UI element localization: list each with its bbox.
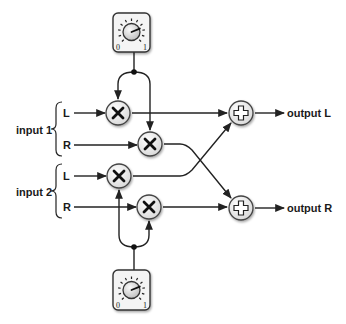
input-2-r-label: R bbox=[63, 201, 71, 213]
input-2-brace bbox=[51, 164, 62, 218]
output-r-label: output R bbox=[287, 202, 332, 214]
multiplier-node-2 bbox=[138, 132, 162, 156]
wire-top-knob-to-mul2 bbox=[134, 72, 150, 130]
knob-tick bbox=[142, 35, 144, 36]
input-2-group: input 2 L R bbox=[16, 164, 71, 218]
wire-top-knob-to-mul1 bbox=[118, 72, 134, 99]
wire-bottom-knob-to-mul3 bbox=[119, 190, 134, 247]
knob-tick bbox=[142, 293, 144, 294]
input-1-brace bbox=[51, 102, 62, 156]
knob-max-label: 1 bbox=[143, 43, 147, 52]
knob-tick bbox=[119, 293, 121, 294]
wire-mul2-to-add-r bbox=[164, 144, 231, 198]
input-1-label: input 1 bbox=[16, 124, 52, 136]
input-1-r-label: R bbox=[63, 139, 71, 151]
adder-node-r bbox=[229, 196, 253, 220]
knob-bottom[interactable]: 0 1 bbox=[113, 270, 150, 310]
knob-min-label: 0 bbox=[116, 43, 120, 52]
junction-dot-bottom bbox=[131, 244, 137, 250]
wire-bottom-knob-to-mul4 bbox=[134, 221, 149, 247]
input-1-l-label: L bbox=[63, 107, 70, 119]
multiplier-node-4 bbox=[137, 195, 161, 219]
output-l-label: output L bbox=[287, 107, 331, 119]
knob-top[interactable]: 0 1 bbox=[113, 13, 150, 52]
input-1-group: input 1 L R bbox=[16, 102, 71, 156]
knob-tick bbox=[119, 35, 121, 36]
knob-max-label: 1 bbox=[143, 301, 147, 310]
multiplier-node-3 bbox=[107, 164, 131, 188]
input-2-label: input 2 bbox=[16, 186, 52, 198]
adder-node-l bbox=[229, 101, 253, 125]
multiplier-node-1 bbox=[106, 101, 130, 125]
junction-dot-top bbox=[131, 69, 137, 75]
input-2-l-label: L bbox=[63, 170, 70, 182]
crossfade-mixer-diagram: input 1 L R input 2 L R output L output … bbox=[0, 0, 346, 324]
knob-min-label: 0 bbox=[116, 301, 120, 310]
